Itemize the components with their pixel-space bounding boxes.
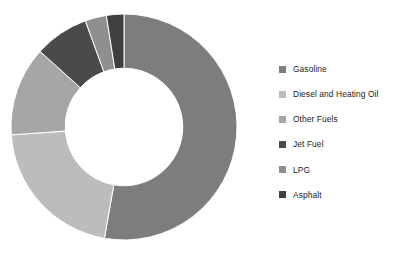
legend-item-label: LPG (293, 166, 310, 174)
legend-item-label: Diesel and Heating Oil (293, 90, 379, 98)
legend-swatch-icon (279, 191, 286, 198)
chart-legend: GasolineDiesel and Heating OilOther Fuel… (279, 58, 405, 209)
donut-plot-area: GasolineDiesel and Heating OilOther Fuel… (8, 8, 240, 246)
legend-item-label: Gasoline (293, 65, 327, 73)
donut-slice[interactable]: Diesel and Heating Oil (11, 131, 114, 238)
legend-item[interactable]: Asphalt (279, 184, 405, 206)
legend-item[interactable]: Jet Fuel (279, 134, 405, 156)
legend-item-label: Other Fuels (293, 115, 338, 123)
legend-item[interactable]: Other Fuels (279, 108, 405, 130)
donut-slice-group: GasolineDiesel and Heating OilOther Fuel… (11, 14, 237, 240)
legend-swatch-icon (279, 116, 286, 123)
legend-item[interactable]: LPG (279, 159, 405, 181)
legend-item[interactable]: Gasoline (279, 58, 405, 80)
donut-svg: GasolineDiesel and Heating OilOther Fuel… (8, 8, 240, 246)
legend-swatch-icon (279, 141, 286, 148)
legend-swatch-icon (279, 66, 286, 73)
donut-chart-figure: GasolineDiesel and Heating OilOther Fuel… (0, 0, 407, 254)
legend-swatch-icon (279, 166, 286, 173)
legend-swatch-icon (279, 91, 286, 98)
legend-item-label: Asphalt (293, 191, 322, 199)
legend-item-label: Jet Fuel (293, 140, 324, 148)
legend-item[interactable]: Diesel and Heating Oil (279, 83, 405, 105)
